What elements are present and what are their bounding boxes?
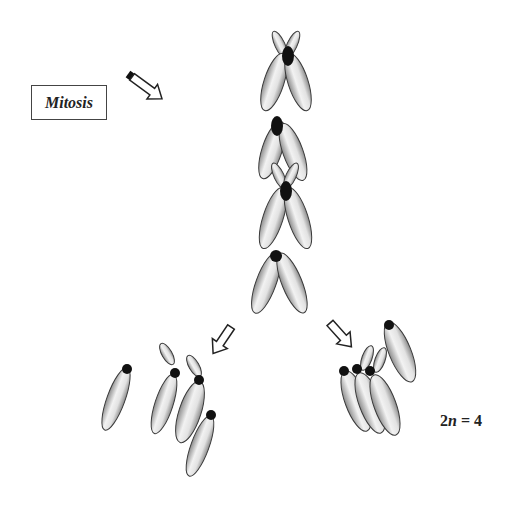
- mitosis-label-box: Mitosis: [31, 85, 107, 120]
- chromosome-stage-1: [255, 29, 317, 113]
- mitosis-arrow-icon: [123, 67, 168, 106]
- centromere-icon: [271, 116, 283, 136]
- mitosis-label: Mitosis: [45, 94, 93, 112]
- centromere-icon: [280, 181, 292, 201]
- mitosis-diagram: Mitosis 2n = 4: [0, 0, 516, 508]
- chromosome-stage-4: [246, 250, 314, 317]
- diagram-canvas: [0, 0, 516, 508]
- left-daughter-chromosomes: [96, 341, 219, 479]
- right-split-arrow-icon: [323, 317, 358, 353]
- ploidy-prefix: 2: [440, 412, 448, 429]
- centromere-icon: [282, 46, 294, 66]
- ploidy-suffix: = 4: [457, 412, 482, 429]
- ploidy-label: 2n = 4: [440, 412, 482, 430]
- centromere-icon: [270, 250, 282, 262]
- left-split-arrow-icon: [206, 322, 239, 359]
- ploidy-variable: n: [448, 412, 457, 429]
